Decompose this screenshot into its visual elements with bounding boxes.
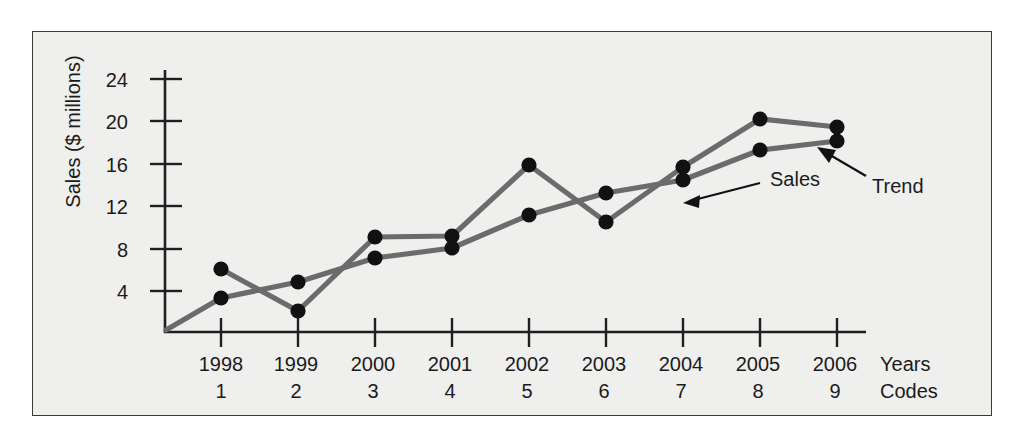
x-tick-year-2000: 2000 bbox=[337, 351, 409, 378]
x-tick-2004: 2004 7 bbox=[645, 351, 717, 405]
x-axis-caption-codes: Codes bbox=[880, 378, 938, 405]
x-tick-code-5: 5 bbox=[491, 378, 563, 405]
y-tick-label-12: 12 bbox=[82, 196, 128, 219]
x-tick-year-2002: 2002 bbox=[491, 351, 563, 378]
x-tick-1999: 1999 2 bbox=[260, 351, 332, 405]
x-tick-year-2004: 2004 bbox=[645, 351, 717, 378]
x-tick-code-3: 3 bbox=[337, 378, 409, 405]
x-axis-caption: Years Codes bbox=[880, 351, 938, 405]
x-tick-year-2005: 2005 bbox=[722, 351, 794, 378]
annotation-label-sales: Sales bbox=[770, 168, 820, 191]
y-tick-label-20: 20 bbox=[82, 111, 128, 134]
chart-figure: Sales ($ millions) 24 20 16 12 8 4 1998 … bbox=[0, 0, 1023, 448]
x-tick-2001: 2001 4 bbox=[414, 351, 486, 405]
x-tick-code-4: 4 bbox=[414, 378, 486, 405]
x-tick-code-6: 6 bbox=[568, 378, 640, 405]
x-tick-code-1: 1 bbox=[185, 378, 257, 405]
x-tick-year-1999: 1999 bbox=[260, 351, 332, 378]
x-tick-1998: 1998 1 bbox=[185, 351, 257, 405]
annotation-label-trend: Trend bbox=[872, 175, 924, 198]
x-tick-code-2: 2 bbox=[260, 378, 332, 405]
x-tick-code-8: 8 bbox=[722, 378, 794, 405]
x-tick-year-2006: 2006 bbox=[799, 351, 871, 378]
y-tick-label-8: 8 bbox=[82, 239, 128, 262]
x-tick-year-2001: 2001 bbox=[414, 351, 486, 378]
x-axis-caption-years: Years bbox=[880, 351, 938, 378]
x-tick-code-7: 7 bbox=[645, 378, 717, 405]
x-tick-2003: 2003 6 bbox=[568, 351, 640, 405]
x-tick-2006: 2006 9 bbox=[799, 351, 871, 405]
x-tick-code-9: 9 bbox=[799, 378, 871, 405]
y-tick-label-16: 16 bbox=[82, 154, 128, 177]
x-tick-2000: 2000 3 bbox=[337, 351, 409, 405]
x-tick-2002: 2002 5 bbox=[491, 351, 563, 405]
y-tick-label-4: 4 bbox=[82, 281, 128, 304]
y-tick-label-24: 24 bbox=[82, 69, 128, 92]
x-tick-2005: 2005 8 bbox=[722, 351, 794, 405]
x-tick-year-1998: 1998 bbox=[185, 351, 257, 378]
x-tick-year-2003: 2003 bbox=[568, 351, 640, 378]
